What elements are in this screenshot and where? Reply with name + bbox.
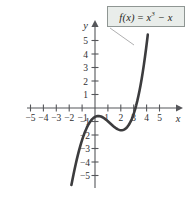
function-callout-box: f(x) = x3 − x (107, 6, 185, 27)
y-tick-label: 4 (83, 50, 88, 60)
y-tick-label: −5 (80, 171, 90, 181)
y-tick-label: 1 (83, 90, 88, 100)
x-axis-label: x (175, 113, 181, 124)
x-tick-label: −4 (38, 113, 48, 123)
x-tick-label: 5 (157, 113, 162, 123)
x-tick-label: 4 (144, 113, 149, 123)
x-tick-label: −3 (51, 113, 61, 123)
x-tick-label: 2 (118, 113, 123, 123)
x-axis-arrow-icon (176, 104, 183, 111)
coordinate-plane: −5 −4 −3 −2 −1 1 2 3 4 5 5 4 3 2 1 −1 −2… (0, 0, 190, 199)
y-axis-label: y (82, 20, 88, 31)
callout-leader-line (110, 28, 134, 45)
y-tick-label: 5 (83, 36, 88, 46)
y-axis-arrow-icon (91, 20, 98, 27)
graph-figure: −5 −4 −3 −2 −1 1 2 3 4 5 5 4 3 2 1 −1 −2… (0, 0, 190, 199)
function-equation-text: f(x) = x3 − x (119, 10, 172, 23)
x-tick-label: −2 (64, 113, 74, 123)
y-tick-label: 2 (83, 77, 88, 87)
y-tick-label: 3 (83, 63, 88, 73)
y-tick-label: −4 (80, 158, 90, 168)
x-tick-label: −5 (25, 113, 35, 123)
